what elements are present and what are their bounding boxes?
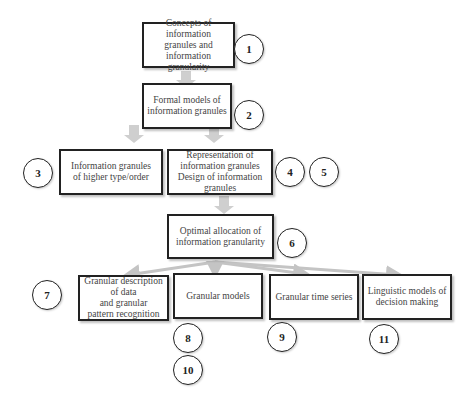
box-concepts: Concepts of information granules and inf… bbox=[142, 22, 235, 68]
chapter-9-badge: 9 bbox=[267, 322, 297, 352]
chapter-3-badge: 3 bbox=[23, 158, 53, 188]
box-optimal-allocation: Optimal allocation of information granul… bbox=[167, 214, 274, 259]
chapter-8-badge: 8 bbox=[173, 323, 203, 353]
chapter-7-badge: 7 bbox=[32, 280, 62, 310]
box-representation-design: Representation of information granules D… bbox=[167, 149, 273, 195]
box-linguistic-models: Linguistic models of decision making bbox=[362, 274, 452, 320]
box-granular-models: Granular models bbox=[173, 273, 263, 319]
box-higher-type: Information granules of higher type/orde… bbox=[59, 149, 163, 195]
chapter-10-badge: 10 bbox=[173, 355, 203, 385]
chapter-5-badge: 5 bbox=[309, 157, 339, 187]
chapter-11-badge: 11 bbox=[369, 324, 399, 354]
chapter-2-badge: 2 bbox=[234, 100, 264, 130]
box-formal-models: Formal models of information granules bbox=[142, 83, 232, 129]
box-granular-description: Granular description of data and granula… bbox=[78, 275, 169, 321]
box-granular-time-series: Granular time series bbox=[269, 274, 359, 320]
chapter-4-badge: 4 bbox=[275, 157, 305, 187]
chapter-6-badge: 6 bbox=[277, 228, 307, 258]
chapter-1-badge: 1 bbox=[234, 34, 264, 64]
